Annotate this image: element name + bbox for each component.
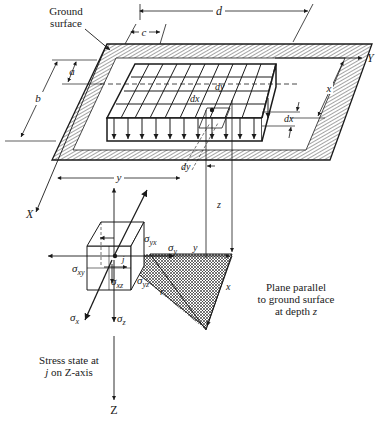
dimension-b: b	[5, 62, 57, 141]
label-a: a	[69, 65, 75, 77]
caption-plane: Plane parallel to ground surface at dept…	[258, 281, 335, 317]
svg-text:Stress state at: Stress state at	[39, 354, 99, 366]
dimension-c: c	[125, 24, 166, 44]
svg-text:Plane parallel: Plane parallel	[266, 281, 326, 293]
label-sigma-x: σx	[70, 311, 79, 326]
label-plane-x: x	[225, 281, 231, 292]
label-dy-bottom: dy	[181, 161, 191, 172]
label-Z: Z	[110, 403, 117, 417]
label-plane-r: r	[160, 286, 164, 297]
label-x-right: x	[326, 82, 332, 94]
label-dx-element: dx	[190, 93, 200, 104]
dimension-y: y	[58, 171, 180, 184]
svg-text:surface: surface	[50, 17, 82, 29]
svg-text:to ground surface: to ground surface	[258, 293, 335, 305]
ground-surface-label: Ground surface	[49, 5, 110, 50]
svg-text:j on Z-axis: j on Z-axis	[43, 366, 93, 378]
label-X: X	[25, 207, 34, 221]
label-plane-y: y	[192, 242, 198, 253]
stress-distribution-diagram: c d Ground surface a b Y x	[0, 0, 375, 423]
label-sigma-xy: σxy	[72, 262, 85, 277]
caption-stress-state: Stress state at j on Z-axis	[39, 354, 99, 378]
label-y: y	[116, 171, 122, 183]
label-b: b	[35, 92, 41, 104]
label-sigma-yx: σyx	[144, 232, 157, 247]
dimension-d: d	[140, 4, 313, 42]
label-Y: Y	[367, 51, 375, 65]
label-dy-element: dy	[215, 81, 225, 92]
z-axis: Z	[110, 336, 117, 417]
svg-text:at depth z: at depth z	[275, 305, 318, 317]
svg-text:Ground: Ground	[49, 5, 83, 17]
label-c: c	[142, 26, 147, 38]
label-j: j	[121, 254, 125, 264]
label-dx-right: dx	[284, 113, 294, 124]
label-sigma-z: σz	[117, 312, 126, 327]
label-d: d	[216, 4, 223, 18]
label-z-depth: z	[216, 199, 221, 210]
